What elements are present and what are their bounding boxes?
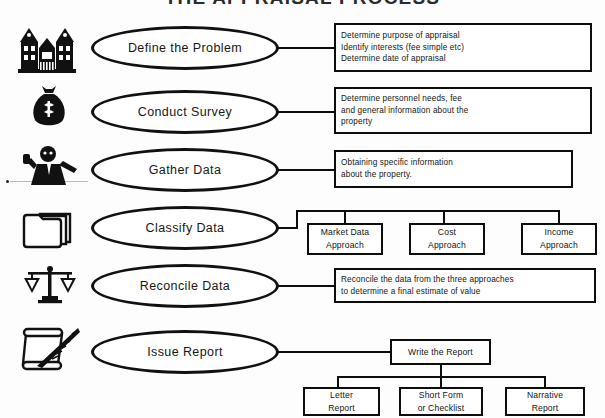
money-bag-icon [28, 84, 70, 130]
stage-conduct-survey[interactable]: Conduct Survey [91, 90, 279, 134]
stage-label: Gather Data [149, 164, 222, 177]
report-type-box-letter: Letter Report [303, 387, 380, 416]
approach-box-cost: Cost Approach [409, 223, 485, 255]
detail-box-reconcile-data: Reconcile the data from the three approa… [334, 268, 596, 303]
connector-issue-report [278, 351, 391, 353]
balance-scales-icon [22, 264, 78, 308]
folders-icon [20, 208, 82, 250]
connector-classify-data-stub [278, 227, 298, 229]
stage-gather-data[interactable]: Gather Data [91, 148, 279, 192]
appraisal-process-diagram: THE APPRAISAL PROCESS [0, 0, 605, 418]
stage-label: Define the Problem [128, 42, 242, 55]
detail-text: Reconcile the data from the three approa… [336, 274, 519, 298]
approach-bus-line [296, 210, 560, 212]
approach-box-income: Income Approach [521, 223, 597, 255]
stage-label: Reconcile Data [140, 280, 230, 293]
approach-drop-cost [443, 210, 445, 224]
detail-box-conduct-survey: Determine personnel needs, fee and gener… [334, 87, 592, 134]
stage-label: Classify Data [146, 222, 225, 235]
page-title: THE APPRAISAL PROCESS [0, 0, 605, 9]
report-type-box-short-form: Short Form or Checklist [399, 387, 483, 416]
report-type-label: Narrative Report [507, 389, 583, 415]
connector-reconcile-data [278, 285, 334, 287]
approach-box-market-data: Market Data Approach [307, 223, 383, 255]
write-the-report-label: Write the Report [392, 346, 489, 359]
write-the-report-box: Write the Report [390, 339, 491, 365]
detail-text: Determine purpose of appraisal Identify … [336, 30, 469, 66]
approach-drop-income [558, 210, 560, 224]
connector-conduct-survey [278, 111, 334, 113]
approach-label: Income Approach [523, 226, 595, 252]
report-type-box-narrative: Narrative Report [505, 387, 585, 416]
report-type-label: Letter Report [305, 389, 378, 415]
connector-classify-data-riser [296, 210, 298, 229]
approach-label: Cost Approach [411, 226, 483, 252]
approach-drop-market-data [344, 210, 346, 224]
detail-box-gather-data: Obtaining specific information about the… [334, 150, 573, 188]
report-type-label: Short Form or Checklist [401, 389, 481, 415]
connector-define-problem [278, 47, 334, 49]
detail-box-define-the-problem: Determine purpose of appraisal Identify … [334, 23, 592, 72]
person-on-phone-icon [18, 145, 80, 189]
scan-artifact-dot [6, 180, 9, 183]
detail-text: Determine personnel needs, fee and gener… [336, 93, 473, 129]
detail-text: Obtaining specific information about the… [336, 157, 458, 181]
approach-label: Market Data Approach [309, 226, 381, 252]
stage-define-the-problem[interactable]: Define the Problem [91, 26, 279, 70]
stage-reconcile-data[interactable]: Reconcile Data [91, 264, 279, 308]
stage-label: Issue Report [147, 346, 223, 359]
mansion-icon [16, 22, 78, 74]
stage-label: Conduct Survey [138, 106, 233, 119]
stage-classify-data[interactable]: Classify Data [91, 206, 279, 250]
stage-issue-report[interactable]: Issue Report [91, 330, 279, 374]
connector-gather-data [278, 169, 334, 171]
scroll-quill-icon [20, 326, 82, 374]
